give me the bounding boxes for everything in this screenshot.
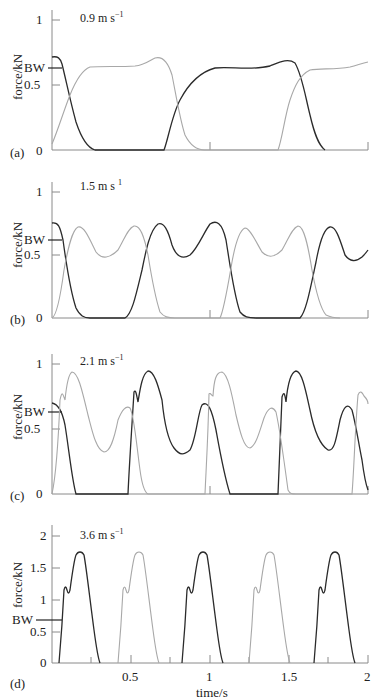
series-dark [52,57,325,150]
speed-annotation: 3.6 m s−1 [80,527,124,542]
series-light [52,372,368,494]
x-axis-label: time/s [196,685,228,700]
ytick-0.5: 0.5 [24,421,40,436]
panel-label: (a) [10,145,24,160]
series-light [118,552,290,663]
bw-label: BW [24,60,46,75]
y-axis-label: force/kN [10,393,25,440]
ytick-1: 1 [36,12,43,27]
xtick-1.5: 1.5 [281,669,297,684]
panel-c: 1 0.5 0 BW (c) 2.1 m s−1 force/kN [10,353,368,503]
bw-label: BW [24,232,46,247]
y-axis-label: force/kN [10,53,25,100]
panel-d: 2 1.5 1 0.5 0 BW (d) 3.6 m s−1 force/kN … [10,525,371,700]
ytick-0: 0 [36,486,43,501]
panel-label: (c) [10,488,24,503]
series-light [52,226,340,318]
panel-b: 1 0.5 0 BW (b) 1.5 m s1 force/kN [10,178,368,327]
panel-label: (b) [10,312,25,327]
xtick-2: 2 [364,669,371,684]
y-axis-label: force/kN [10,561,25,608]
speed-annotation: 0.9 m s−1 [80,10,124,25]
panel-label: (d) [10,676,25,691]
xtick-0.5: 0.5 [122,669,138,684]
ytick-0: 0 [36,143,43,158]
series-dark [52,371,368,494]
ytick-2: 2 [40,528,47,543]
ytick-0: 0 [36,310,43,325]
y-axis-label: force/kN [10,221,25,268]
speed-annotation: 2.1 m s−1 [80,353,124,368]
gait-force-figure: 1 0.5 0 BW (a) 0.9 m s−1 force/kN 1 0.5 … [0,0,384,700]
ytick-1: 1 [36,184,43,199]
ytick-1: 1 [36,356,43,371]
series-light [52,58,368,150]
panel-a: 1 0.5 0 BW (a) 0.9 m s−1 force/kN [10,10,368,160]
speed-annotation: 1.5 m s1 [80,178,122,193]
xtick-1: 1 [206,669,213,684]
ytick-0.5: 0.5 [24,77,40,92]
ytick-1.5: 1.5 [30,560,46,575]
ytick-0: 0 [40,655,47,670]
ytick-0.5: 0.5 [24,247,40,262]
series-dark [59,552,355,663]
bw-label: BW [12,612,34,627]
ytick-1: 1 [40,592,47,607]
bw-label: BW [24,404,46,419]
